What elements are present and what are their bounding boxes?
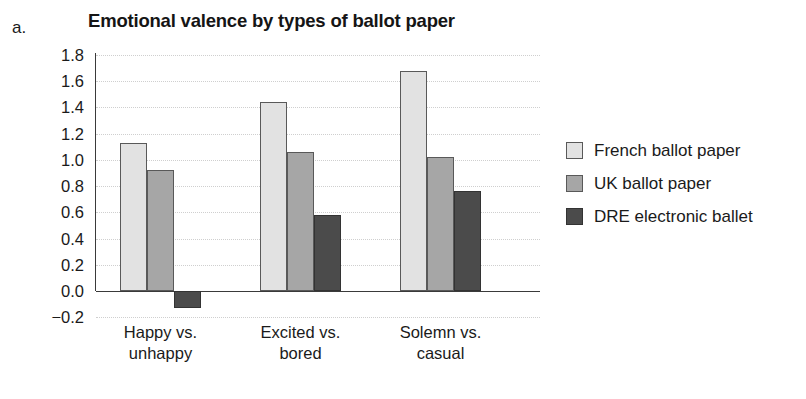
legend-swatch-icon xyxy=(566,175,583,192)
bar xyxy=(287,152,314,291)
x-axis-category-label-line: bored xyxy=(221,343,381,364)
y-axis-tick-label: 0.2 xyxy=(61,257,84,274)
bar xyxy=(147,170,174,291)
y-axis-tick-label: −0.2 xyxy=(51,309,84,326)
bar xyxy=(260,102,287,291)
x-axis-category-label-line: Excited vs. xyxy=(221,322,381,343)
chart-figure: a. Emotional valence by types of ballot … xyxy=(0,0,806,399)
x-axis-category-label: Happy vs.unhappy xyxy=(81,322,241,364)
x-axis-category-label: Excited vs.bored xyxy=(221,322,381,364)
legend-item: DRE electronic ballet xyxy=(566,200,806,233)
legend-item: UK ballot paper xyxy=(566,167,806,200)
x-axis-category-label: Solemn vs.casual xyxy=(361,322,521,364)
y-axis-tick-label: 0.6 xyxy=(61,204,84,221)
y-axis-tick-labels: 1.81.61.41.21.00.80.60.40.20.0−0.2 xyxy=(0,55,92,325)
legend-item: French ballot paper xyxy=(566,134,806,167)
x-axis-category-label-line: Solemn vs. xyxy=(361,322,521,343)
legend-item-label: UK ballot paper xyxy=(594,174,711,194)
bar xyxy=(427,157,454,291)
plot-area xyxy=(96,55,540,315)
legend-swatch-icon xyxy=(566,142,583,159)
y-axis-tick-label: 1.6 xyxy=(61,73,84,90)
gridline xyxy=(96,81,540,82)
bar xyxy=(314,215,341,291)
y-axis-tick-label: 1.2 xyxy=(61,126,84,143)
gridline xyxy=(96,55,540,56)
legend-swatch-icon xyxy=(566,208,583,225)
gridline xyxy=(96,160,540,161)
y-axis-tick-label: 0.8 xyxy=(61,178,84,195)
gridline xyxy=(96,134,540,135)
y-axis-tick-label: 1.0 xyxy=(61,152,84,169)
bar xyxy=(120,143,147,291)
bar xyxy=(454,191,481,291)
x-axis-category-label-line: unhappy xyxy=(81,343,241,364)
bar xyxy=(174,291,201,308)
chart-legend: French ballot paperUK ballot paperDRE el… xyxy=(566,134,806,233)
bar xyxy=(400,71,427,291)
y-axis-line xyxy=(95,53,96,291)
x-axis-category-label-line: casual xyxy=(361,343,521,364)
gridline xyxy=(96,107,540,108)
panel-letter: a. xyxy=(12,18,26,38)
legend-item-label: French ballot paper xyxy=(594,141,740,161)
y-axis-tick-label: 0.4 xyxy=(61,231,84,248)
y-axis-tick-label: 1.4 xyxy=(61,99,84,116)
x-axis-category-label-line: Happy vs. xyxy=(81,322,241,343)
zero-axis-line xyxy=(96,291,540,292)
y-axis-tick-label: 1.8 xyxy=(61,47,84,64)
y-axis-tick-label: 0.0 xyxy=(61,283,84,300)
chart-title: Emotional valence by types of ballot pap… xyxy=(88,10,455,32)
gridline xyxy=(96,317,540,318)
legend-item-label: DRE electronic ballet xyxy=(594,207,753,227)
